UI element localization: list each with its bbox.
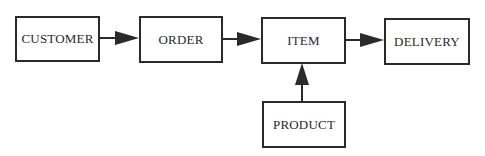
diagram-canvas: CUSTOMER ORDER ITEM DELIVERY PRODUCT xyxy=(0,0,485,156)
node-delivery: DELIVERY xyxy=(384,18,470,65)
node-product-label: PRODUCT xyxy=(273,117,335,133)
node-product: PRODUCT xyxy=(262,101,346,148)
arrow-customer-to-order xyxy=(99,31,139,45)
arrow-order-to-item xyxy=(222,32,261,46)
node-order-label: ORDER xyxy=(158,32,203,48)
node-delivery-label: DELIVERY xyxy=(394,34,460,50)
node-customer-label: CUSTOMER xyxy=(21,31,93,47)
node-customer: CUSTOMER xyxy=(15,16,100,62)
arrow-product-to-item xyxy=(295,63,309,101)
node-order: ORDER xyxy=(139,16,223,63)
node-item: ITEM xyxy=(261,17,346,64)
arrow-item-to-delivery xyxy=(345,33,384,47)
node-item-label: ITEM xyxy=(287,33,320,49)
